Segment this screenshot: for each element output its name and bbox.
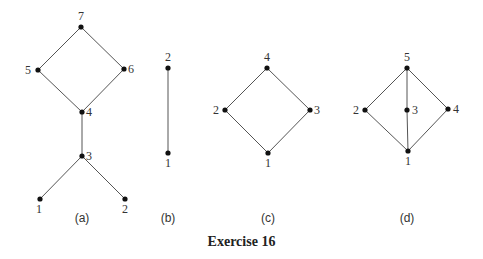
diagram-d: 52341(d) (353, 50, 459, 225)
edge-7-6 (81, 27, 124, 69)
node-label: 3 (412, 103, 418, 117)
node-label: 3 (314, 103, 320, 117)
node-4 (79, 109, 84, 114)
edge-2-1 (225, 110, 268, 153)
node-2 (222, 107, 227, 112)
edge-3-1 (40, 156, 82, 199)
node-label: 1 (265, 156, 271, 170)
node-label: 2 (122, 202, 128, 216)
node-4 (445, 106, 450, 111)
edge-5-2 (365, 68, 407, 110)
node-label: 4 (86, 105, 92, 119)
edge-2-1 (365, 110, 408, 151)
node-label: 7 (78, 9, 84, 23)
node-label: 1 (165, 156, 171, 170)
diagram-b: 21(b) (161, 50, 176, 225)
node-label: 2 (353, 103, 359, 117)
node-3 (307, 107, 312, 112)
node-3 (79, 153, 84, 158)
node-1 (165, 150, 170, 155)
node-1 (405, 148, 410, 153)
node-label: 4 (264, 50, 270, 64)
node-label: 6 (128, 62, 134, 76)
node-label: 1 (405, 154, 411, 168)
figure-caption: Exercise 16 (0, 234, 483, 250)
node-2 (362, 107, 367, 112)
diagram-label: (a) (75, 211, 90, 225)
node-7 (78, 24, 83, 29)
node-2 (122, 196, 127, 201)
node-2 (165, 65, 170, 70)
node-label: 2 (213, 103, 219, 117)
edge-4-2 (225, 68, 267, 110)
node-1 (265, 150, 270, 155)
diagram-c: 4231(c) (213, 50, 320, 225)
diagram-a: 7564312(a) (25, 9, 134, 225)
node-5 (404, 65, 409, 70)
node-label: 4 (453, 102, 459, 116)
node-label: 1 (36, 202, 42, 216)
node-label: 5 (404, 50, 410, 64)
edge-3-1 (268, 110, 310, 153)
node-label: 3 (86, 149, 92, 163)
edge-5-4 (38, 70, 82, 112)
node-1 (37, 196, 42, 201)
edge-4-3 (267, 68, 310, 110)
node-label: 2 (165, 50, 171, 64)
node-3 (404, 107, 409, 112)
hasse-diagrams: 7564312(a)21(b)4231(c)52341(d) (0, 0, 483, 259)
node-4 (264, 65, 269, 70)
edge-7-5 (38, 27, 81, 70)
diagram-label: (d) (400, 211, 415, 225)
node-6 (121, 66, 126, 71)
node-label: 5 (25, 63, 31, 77)
diagram-label: (b) (161, 211, 176, 225)
node-5 (35, 67, 40, 72)
exercise-figure: 7564312(a)21(b)4231(c)52341(d) Exercise … (0, 0, 483, 259)
diagram-label: (c) (261, 211, 275, 225)
edge-3-1 (407, 110, 408, 151)
